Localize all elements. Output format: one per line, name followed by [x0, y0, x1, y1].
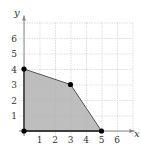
y-tick-label: 3: [11, 80, 17, 90]
vertex-point: [21, 66, 26, 71]
y-tick-label: 4: [11, 65, 17, 75]
x-tick-label: 1: [37, 135, 43, 145]
vertex-point: [21, 128, 26, 133]
y-tick-label: 1: [11, 111, 17, 121]
vertex-point: [99, 128, 104, 133]
vertex-point: [68, 82, 73, 87]
y-tick-label: 5: [11, 49, 17, 59]
polygon-region-chart: 123456123456 x y: [0, 0, 141, 150]
y-axis-arrow-icon: [22, 16, 26, 21]
x-tick-label: 3: [68, 135, 74, 145]
feasible-region: [24, 69, 102, 131]
x-tick-label: 2: [52, 135, 58, 145]
y-tick-label: 6: [11, 34, 17, 44]
x-axis-label: x: [134, 128, 140, 139]
x-tick-label: 5: [99, 135, 105, 145]
y-axis-label: y: [13, 7, 20, 18]
x-tick-label: 4: [83, 135, 89, 145]
x-tick-label: 6: [114, 135, 120, 145]
y-tick-label: 2: [11, 96, 17, 106]
